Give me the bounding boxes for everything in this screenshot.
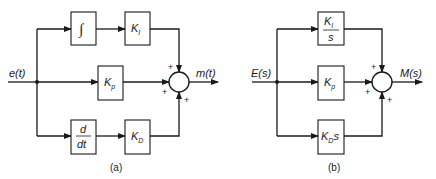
output-label-M-s: M(s) xyxy=(400,67,422,79)
output-label-m-t: m(t) xyxy=(196,67,216,79)
caption-b: (b) xyxy=(328,162,340,173)
pid-block-diagrams: e(t) ∫ KI Kp d dt KD + + + m(t) (a) xyxy=(0,0,436,179)
ki-to-sum-arrow-b xyxy=(344,29,382,72)
ki-to-sum-arrow xyxy=(150,29,179,72)
caption-a: (a) xyxy=(110,162,122,173)
sign-plus-top: + xyxy=(168,62,173,72)
sign-plus-bottom-b: + xyxy=(387,95,392,105)
sign-plus-top-b: + xyxy=(371,62,376,72)
kd-to-sum-arrow xyxy=(150,92,179,136)
integral-block xyxy=(71,12,96,45)
summing-junction-b xyxy=(372,72,392,92)
sign-plus-left: + xyxy=(162,87,167,97)
sign-plus-bottom: + xyxy=(184,95,189,105)
input-label-E-s: E(s) xyxy=(251,67,272,79)
sign-plus-left-b: + xyxy=(365,87,370,97)
derivative-numerator: d xyxy=(80,123,87,135)
derivative-denominator: dt xyxy=(77,138,87,150)
kd-to-sum-arrow-b xyxy=(344,92,382,136)
input-label-e-t: e(t) xyxy=(9,67,26,79)
diagram-a: e(t) ∫ KI Kp d dt KD + + + m(t) (a) xyxy=(8,12,218,173)
diagram-b: E(s) KI s Kp KDs + + + M(s) (b) xyxy=(251,12,422,173)
ki-over-s-denominator: s xyxy=(328,31,334,43)
summing-junction xyxy=(169,72,189,92)
